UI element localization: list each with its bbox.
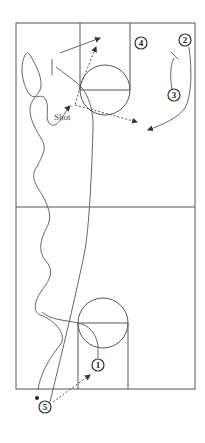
court [16, 23, 195, 389]
bottom-lane [78, 323, 128, 389]
svg-text:3: 3 [172, 90, 177, 100]
top-lane [80, 23, 130, 90]
pass-arrow-up [80, 47, 96, 87]
svg-text:1: 1 [96, 360, 101, 370]
svg-text:4: 4 [139, 38, 144, 48]
svg-text:5: 5 [43, 402, 48, 412]
play-diagram: Shot 1 2 3 4 5 [0, 0, 205, 443]
pass-arrow-right [75, 105, 137, 122]
player-3: 3 [168, 89, 180, 101]
shot-label: Shot [54, 112, 71, 122]
cut-path-2 [148, 47, 191, 130]
ball-icon [35, 396, 39, 400]
dribble-path [22, 53, 70, 390]
pass-line-down [75, 87, 80, 105]
player-4: 4 [135, 37, 147, 49]
player-2: 2 [179, 34, 191, 46]
screen-marker-3 [171, 52, 178, 59]
svg-text:2: 2 [183, 35, 188, 45]
cut-path-5 [50, 88, 93, 402]
player-5: 5 [39, 401, 51, 413]
screen-path [56, 67, 82, 88]
cut-path-3 [171, 58, 174, 89]
court-boundary [16, 23, 195, 389]
player-1: 1 [92, 359, 104, 371]
